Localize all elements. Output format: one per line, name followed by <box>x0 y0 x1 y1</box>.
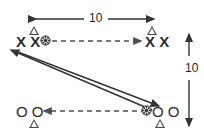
players-bottom-left: O O <box>16 104 44 119</box>
players-top-right: X X <box>145 34 169 49</box>
cone-icon <box>155 119 165 128</box>
ball-icon <box>40 35 51 46</box>
ball-icon <box>141 105 152 116</box>
dimension-label-vertical: 10 <box>182 62 201 74</box>
cone-icon <box>29 119 39 128</box>
path-player-run-up <box>11 50 152 110</box>
players-top-left: X X <box>16 34 40 49</box>
players-bottom-right: O O <box>152 104 180 119</box>
path-player-run-down <box>18 52 159 106</box>
diagram-canvas: 10 10 X X X X O O O O <box>0 0 204 138</box>
dimension-label-horizontal: 10 <box>86 12 105 24</box>
